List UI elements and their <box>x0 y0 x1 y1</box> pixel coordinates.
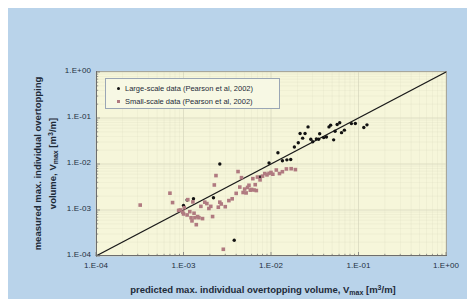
legend-item-large-scale: Large-scale data (Pearson et al, 2002) <box>114 83 279 94</box>
y-axis-title: measured max. individual overtopping vol… <box>31 64 62 264</box>
legend-label-large-scale: Large-scale data (Pearson et al, 2002) <box>123 84 253 93</box>
y-axis-title-line1: measured max. individual overtopping <box>31 64 44 264</box>
series-small-scale <box>138 167 297 251</box>
y-axis-line <box>96 71 97 256</box>
chart-panel: 1.E-041.E-031.E-021.E-011.E+00 1.E-041.E… <box>8 8 467 299</box>
y-axis-unit-exponent: 3 <box>47 132 54 136</box>
x-axis-line <box>96 255 447 256</box>
x-tick-label: 1.E+00 <box>418 261 474 270</box>
figure-root: 1.E-041.E-031.E-021.E-011.E+00 1.E-041.E… <box>0 0 475 307</box>
circle-marker-icon <box>114 87 123 90</box>
series-large-scale <box>182 121 369 242</box>
legend-label-small-scale: Small-scale data (Pearson et al, 2002) <box>123 97 253 106</box>
chart-legend: Large-scale data (Pearson et al, 2002) S… <box>105 78 280 109</box>
y-axis-title-text: volume, V <box>47 164 58 209</box>
x-tick-label: 1.E-03 <box>156 261 212 270</box>
x-axis-title-subscript: max <box>349 289 363 296</box>
x-axis-title-text: predicted max. individual overtopping vo… <box>130 284 349 295</box>
y-axis-unit-prefix: [m <box>47 136 58 150</box>
y-axis-title-subscript: max <box>52 150 59 164</box>
x-tick-label: 1.E-01 <box>331 261 387 270</box>
x-axis-title: predicted max. individual overtopping vo… <box>68 284 458 296</box>
x-axis-unit-prefix: [m <box>363 284 377 295</box>
x-tick-label: 1.E-02 <box>243 261 299 270</box>
y-axis-unit-suffix: /m] <box>47 118 58 132</box>
y-axis-title-line2: volume, Vmax [m3/m] <box>44 64 62 264</box>
x-axis-unit-suffix: /m] <box>382 284 396 295</box>
x-tick-label: 1.E-04 <box>68 261 124 270</box>
legend-item-small-scale: Small-scale data (Pearson et al, 2002) <box>114 96 279 107</box>
square-marker-icon <box>114 100 123 104</box>
